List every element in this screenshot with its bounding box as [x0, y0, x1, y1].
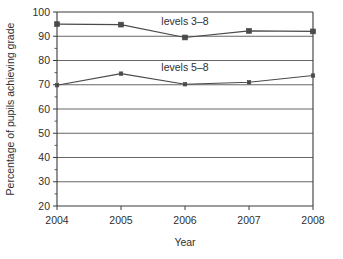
- series-annotation-label: levels 5–8: [161, 61, 208, 73]
- x-axis-title: Year: [174, 236, 196, 248]
- x-tick-label: 2005: [109, 214, 133, 226]
- data-point-marker: [183, 35, 188, 40]
- x-tick-label: 2006: [173, 214, 197, 226]
- data-point-marker: [311, 74, 314, 77]
- x-tick-label: 2004: [45, 214, 69, 226]
- y-axis-title: Percentage of pupils achieving grade: [4, 22, 16, 195]
- y-tick-label: 50: [38, 127, 50, 139]
- data-point-marker: [55, 84, 58, 87]
- line-chart: 2030405060708090100 20042005200620072008…: [0, 0, 343, 259]
- y-tick-label: 20: [38, 200, 50, 212]
- y-tick-label: 40: [38, 151, 50, 163]
- series-annotation-label: levels 3–8: [161, 15, 208, 27]
- data-point-marker: [247, 29, 252, 34]
- chart-svg: 2030405060708090100 20042005200620072008…: [0, 0, 343, 259]
- data-point-marker: [183, 83, 186, 86]
- data-point-marker: [311, 29, 316, 34]
- data-point-marker: [119, 72, 122, 75]
- y-tick-label: 100: [32, 6, 50, 18]
- data-point-marker: [119, 22, 124, 27]
- y-tick-label: 90: [38, 30, 50, 42]
- y-tick-label: 30: [38, 175, 50, 187]
- data-point-marker: [247, 81, 250, 84]
- y-tick-label: 80: [38, 54, 50, 66]
- x-tick-label: 2008: [301, 214, 325, 226]
- y-tick-label: 70: [38, 78, 50, 90]
- data-point-marker: [55, 22, 60, 27]
- x-tick-label: 2007: [237, 214, 261, 226]
- y-tick-label: 60: [38, 103, 50, 115]
